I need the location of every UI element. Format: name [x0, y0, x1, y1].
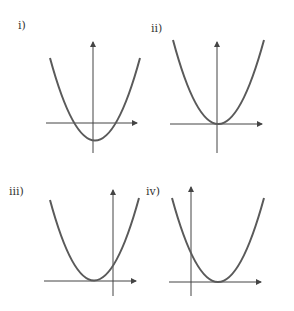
- parabola-curve: [50, 198, 139, 281]
- parabola-graphs-figure: [0, 0, 294, 311]
- parabola-curve: [173, 40, 264, 124]
- graph-panel-iii: [44, 190, 139, 296]
- graph-panel-ii: [170, 40, 264, 153]
- graph-panel-iv: [169, 187, 264, 296]
- parabola-curve: [50, 58, 140, 141]
- graph-panel-i: [46, 42, 140, 153]
- parabola-curve: [172, 198, 264, 282]
